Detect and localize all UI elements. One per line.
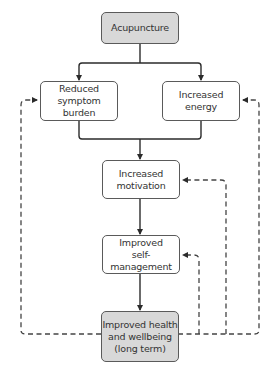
node-acupuncture: Acupuncture (101, 12, 179, 44)
node-improved-self-management: Improved self-management (102, 235, 180, 274)
edge-to-reduced (79, 63, 140, 80)
node-label: Acupuncture (111, 22, 169, 34)
node-reduced-symptom-burden: Reduced symptom burden (40, 81, 118, 121)
node-label: Improved health (102, 319, 177, 331)
node-label: energy (179, 101, 223, 113)
feedback-to-self-management (183, 255, 199, 334)
node-label: and wellbeing (102, 331, 177, 343)
feedback-to-motivation (183, 180, 226, 334)
node-label: self-management (103, 249, 179, 273)
node-label: Improved (103, 237, 179, 249)
node-label: Reduced (41, 83, 117, 95)
node-label: (long term) (102, 343, 177, 355)
node-increased-motivation: Increased motivation (102, 160, 180, 199)
edge-reduced-merge (79, 120, 201, 139)
node-label: Increased (179, 89, 223, 101)
node-increased-energy: Increased energy (162, 81, 240, 121)
node-label: Increased (116, 168, 165, 180)
feedback-to-energy (178, 100, 259, 334)
feedback-to-reduced (21, 100, 101, 334)
node-label: motivation (116, 180, 165, 192)
edge-to-energy (140, 63, 201, 80)
node-label: symptom burden (41, 95, 117, 119)
node-improved-health-wellbeing: Improved health and wellbeing (long term… (101, 311, 179, 362)
